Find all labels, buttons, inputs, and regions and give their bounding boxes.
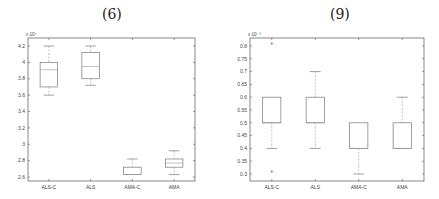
- left-ytick-label: 3.4: [18, 108, 25, 114]
- right-ytick-label: 0.35: [237, 158, 247, 164]
- right-category-label: ALS: [311, 184, 321, 190]
- left-box: [124, 167, 142, 174]
- left-category-label: AMA: [169, 184, 181, 190]
- left-ytick-label: 4: [22, 59, 25, 65]
- left-ytick-label: 2.8: [18, 157, 25, 163]
- right-y-exponent: x 10⁻³: [248, 32, 262, 37]
- left-box: [40, 62, 58, 87]
- right-outlier: +: [270, 168, 273, 174]
- right-box: [393, 123, 411, 149]
- left-ytick-label: 2.6: [18, 174, 25, 180]
- right-ytick-label: 0.3: [240, 171, 247, 177]
- right-ytick-label: 0.55: [237, 107, 247, 113]
- left-axes-frame: [28, 38, 195, 181]
- left-y-exponent: x 10⁴: [26, 32, 37, 37]
- right-ytick-label: 0.65: [237, 81, 247, 87]
- left-ytick-label: 3.8: [18, 75, 25, 81]
- right-ytick-label: 0.6: [240, 94, 247, 100]
- right-ytick-label: 0.45: [237, 132, 247, 138]
- left-category-label: AMA-C: [124, 184, 141, 190]
- left-ytick-label: 4.2: [18, 43, 25, 49]
- right-ytick-label: 0.75: [237, 56, 247, 62]
- right-axes-frame: [250, 38, 424, 181]
- right-ytick-label: 0.5: [240, 120, 247, 126]
- left-ytick-label: 3.6: [18, 92, 25, 98]
- right-box: [350, 123, 368, 149]
- left-category-label: ALS: [86, 184, 96, 190]
- right-category-label: ALS-C: [264, 184, 279, 190]
- right-box: [306, 97, 324, 123]
- left-ytick-label: 3.2: [18, 125, 25, 131]
- right-category-label: AMA: [397, 184, 409, 190]
- right-outlier: +: [270, 40, 273, 46]
- left-ytick-label: 3: [22, 141, 25, 147]
- left-category-label: ALS-C: [42, 184, 57, 190]
- right-category-label: AMA-C: [351, 184, 368, 190]
- right-ytick-label: 0.4: [240, 145, 247, 151]
- right-ytick-label: 0.8: [240, 43, 247, 49]
- right-ytick-label: 0.7: [240, 68, 247, 74]
- right-box: [263, 97, 281, 123]
- left-box: [82, 53, 100, 79]
- box-plot-figure: x 10⁴2.62.833.23.43.63.844.2ALS-CALSAMA-…: [0, 0, 439, 199]
